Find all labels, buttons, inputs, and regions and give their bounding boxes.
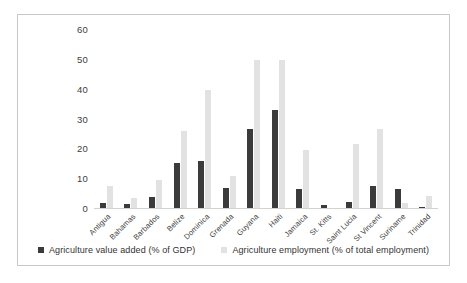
bar[interactable] bbox=[198, 161, 204, 208]
y-axis-tick: 0 bbox=[83, 203, 88, 214]
bar[interactable] bbox=[279, 60, 285, 208]
bar-group bbox=[389, 29, 414, 208]
bar[interactable] bbox=[377, 129, 383, 208]
y-axis-tick: 50 bbox=[77, 53, 88, 64]
bar[interactable] bbox=[395, 189, 401, 208]
bar[interactable] bbox=[370, 186, 376, 208]
bar[interactable] bbox=[296, 189, 302, 208]
bar-group bbox=[291, 29, 316, 208]
bar[interactable] bbox=[181, 131, 187, 208]
y-axis-tick: 40 bbox=[77, 83, 88, 94]
chart-card: 6050403020100 AntiguaBahamasBarbadosBeli… bbox=[17, 14, 450, 266]
bar[interactable] bbox=[254, 60, 260, 208]
bar[interactable] bbox=[426, 196, 432, 208]
bar-group bbox=[340, 29, 365, 208]
x-axis-label: Haiti bbox=[267, 212, 284, 229]
x-axis-label: Belize bbox=[165, 212, 186, 233]
legend-item[interactable]: Agriculture value added (% of GDP) bbox=[38, 245, 195, 255]
y-axis-tick: 30 bbox=[77, 113, 88, 124]
bar[interactable] bbox=[230, 176, 236, 208]
bar-group bbox=[414, 29, 439, 208]
legend-item[interactable]: Agriculture employment (% of total emplo… bbox=[221, 245, 429, 255]
legend-label: Agriculture value added (% of GDP) bbox=[49, 245, 195, 255]
bar-group bbox=[94, 29, 119, 208]
bars-region bbox=[94, 29, 438, 209]
bar-group bbox=[364, 29, 389, 208]
bar-group bbox=[241, 29, 266, 208]
bar[interactable] bbox=[272, 110, 278, 208]
plot-area: 6050403020100 bbox=[62, 29, 438, 209]
bar[interactable] bbox=[303, 150, 309, 208]
bar-group bbox=[168, 29, 193, 208]
bar[interactable] bbox=[131, 198, 137, 208]
chart-legend: Agriculture value added (% of GDP)Agricu… bbox=[18, 245, 449, 255]
bar[interactable] bbox=[149, 197, 155, 208]
y-axis-tick: 60 bbox=[77, 24, 88, 35]
legend-swatch-icon bbox=[221, 247, 227, 253]
bar[interactable] bbox=[223, 188, 229, 208]
bar-groups bbox=[94, 29, 438, 208]
bar-group bbox=[266, 29, 291, 208]
y-axis-tick: 20 bbox=[77, 143, 88, 154]
bar[interactable] bbox=[353, 144, 359, 208]
axis-baseline bbox=[94, 208, 438, 209]
legend-label: Agriculture employment (% of total emplo… bbox=[232, 245, 429, 255]
bar[interactable] bbox=[247, 129, 253, 208]
y-axis-tick: 10 bbox=[77, 173, 88, 184]
bar-group bbox=[192, 29, 217, 208]
bar[interactable] bbox=[156, 180, 162, 208]
bar-group bbox=[143, 29, 168, 208]
y-axis: 6050403020100 bbox=[62, 29, 92, 209]
bar-group bbox=[119, 29, 144, 208]
legend-swatch-icon bbox=[38, 247, 44, 253]
bar[interactable] bbox=[205, 90, 211, 208]
bar[interactable] bbox=[107, 186, 113, 208]
bar[interactable] bbox=[174, 163, 180, 208]
bar-group bbox=[315, 29, 340, 208]
bar-group bbox=[217, 29, 242, 208]
